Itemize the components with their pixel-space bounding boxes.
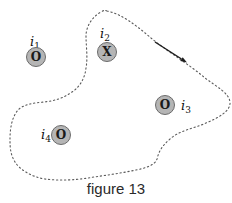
current-label-i2: i2 (100, 27, 110, 40)
current-i1-out-of-page-symbol: O (26, 47, 46, 67)
current-i4-out-of-page-symbol: O (51, 125, 71, 145)
current-label-i3: i3 (181, 99, 191, 112)
loop-svg (0, 0, 232, 203)
loop-direction-arrow-line (155, 42, 182, 59)
current-label-i3-sub: 3 (185, 105, 191, 115)
current-i3-out-of-page-symbol: O (155, 95, 175, 115)
amperian-loop-path (10, 10, 230, 180)
figure-13-diagram: i1 O i2 X O i3 i4 O figure 13 (0, 0, 232, 203)
figure-caption: figure 13 (0, 180, 232, 197)
current-label-i4: i4 (41, 128, 51, 141)
current-i2-into-page-symbol: X (97, 42, 117, 62)
